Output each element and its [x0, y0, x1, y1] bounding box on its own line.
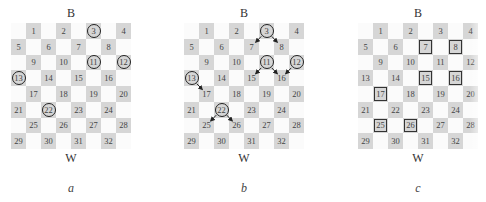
square-24: 24 [274, 102, 289, 118]
black-side-label: B [184, 6, 304, 21]
square-number: 8 [453, 42, 457, 52]
light-square [244, 55, 259, 71]
square-number: 12 [292, 57, 301, 67]
square-number: 9 [378, 57, 382, 67]
square-14: 14 [41, 70, 56, 86]
light-square [229, 102, 244, 118]
square-2: 2 [229, 23, 244, 39]
square-32: 32 [101, 133, 116, 149]
light-square [56, 70, 71, 86]
square-number: 8 [279, 42, 283, 52]
square-31: 31 [418, 133, 433, 149]
square-22: 22 [388, 102, 403, 118]
square-number: 15 [421, 73, 430, 83]
square-number: 31 [421, 136, 430, 146]
square-2: 2 [403, 23, 418, 39]
square-26: 26 [403, 118, 418, 134]
light-square [101, 118, 116, 134]
light-square [41, 118, 56, 134]
light-square [101, 23, 116, 39]
square-26: 26 [229, 118, 244, 134]
light-square [274, 23, 289, 39]
square-number: 18 [232, 89, 241, 99]
light-square [199, 102, 214, 118]
square-number: 23 [421, 105, 430, 115]
white-side-label: W [11, 151, 131, 166]
panel-caption-b: b [184, 181, 304, 196]
light-square [184, 55, 199, 71]
square-21: 21 [184, 102, 199, 118]
light-square [448, 55, 463, 71]
square-15: 15 [71, 70, 86, 86]
square-number: 31 [74, 136, 83, 146]
square-25: 25 [199, 118, 214, 134]
square-1: 1 [199, 23, 214, 39]
square-9: 9 [26, 55, 41, 71]
light-square [388, 118, 403, 134]
light-square [116, 70, 131, 86]
square-number: 29 [187, 136, 196, 146]
square-3: 3 [259, 23, 274, 39]
light-square [433, 39, 448, 55]
square-24: 24 [101, 102, 116, 118]
square-20: 20 [289, 86, 304, 102]
light-square [26, 102, 41, 118]
light-square [403, 70, 418, 86]
light-square [184, 118, 199, 134]
light-square [244, 118, 259, 134]
square-16: 16 [448, 70, 463, 86]
light-square [418, 118, 433, 134]
square-16: 16 [274, 70, 289, 86]
black-side-label: B [11, 6, 131, 21]
black-side-label: B [358, 6, 478, 21]
light-square [388, 23, 403, 39]
square-number: 19 [436, 89, 445, 99]
square-number: 8 [106, 42, 110, 52]
light-square [418, 23, 433, 39]
square-number: 32 [104, 136, 113, 146]
square-29: 29 [11, 133, 26, 149]
light-square [214, 23, 229, 39]
square-number: 22 [217, 105, 226, 115]
square-30: 30 [388, 133, 403, 149]
square-number: 1 [31, 26, 35, 36]
light-square [26, 39, 41, 55]
square-12: 12 [116, 55, 131, 71]
square-19: 19 [433, 86, 448, 102]
square-25: 25 [373, 118, 388, 134]
square-number: 27 [436, 120, 445, 130]
light-square [274, 86, 289, 102]
light-square [71, 86, 86, 102]
light-square [26, 70, 41, 86]
light-square [214, 86, 229, 102]
square-number: 31 [247, 136, 256, 146]
light-square [184, 86, 199, 102]
square-21: 21 [358, 102, 373, 118]
square-number: 16 [277, 73, 286, 83]
light-square [274, 55, 289, 71]
light-square [229, 70, 244, 86]
light-square [289, 70, 304, 86]
light-square [71, 118, 86, 134]
square-number: 25 [202, 120, 211, 130]
square-4: 4 [289, 23, 304, 39]
light-square [86, 70, 101, 86]
light-square [418, 86, 433, 102]
square-5: 5 [184, 39, 199, 55]
checkerboard-a: 1234567891011121314151617181920212223242… [11, 23, 131, 149]
light-square [448, 86, 463, 102]
square-number: 17 [202, 89, 211, 99]
light-square [199, 70, 214, 86]
light-square [199, 133, 214, 149]
light-square [101, 86, 116, 102]
light-square [373, 102, 388, 118]
square-31: 31 [244, 133, 259, 149]
square-number: 5 [189, 42, 193, 52]
panel-caption-c: c [358, 181, 478, 196]
square-32: 32 [448, 133, 463, 149]
square-number: 9 [31, 57, 35, 67]
square-number: 21 [14, 105, 23, 115]
square-7: 7 [244, 39, 259, 55]
square-number: 23 [247, 105, 256, 115]
white-side-label: W [184, 151, 304, 166]
